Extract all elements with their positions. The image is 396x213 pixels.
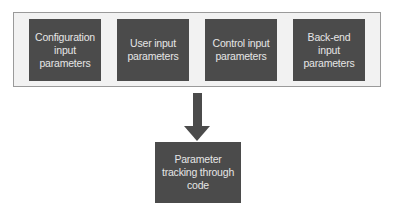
box-label: Parameter tracking through code xyxy=(159,153,237,192)
arrow-head xyxy=(184,126,210,141)
parameter-tracking-box: Parameter tracking through code xyxy=(155,142,241,203)
box-label: Configuration input parameters xyxy=(33,31,97,70)
box-label: Control input parameters xyxy=(209,37,273,63)
back-end-input-parameters-box: Back-end input parameters xyxy=(293,19,365,81)
arrow-shaft xyxy=(193,93,202,127)
user-input-parameters-box: User input parameters xyxy=(117,19,189,81)
box-label: User input parameters xyxy=(121,37,185,63)
configuration-input-parameters-box: Configuration input parameters xyxy=(29,19,101,81)
control-input-parameters-box: Control input parameters xyxy=(205,19,277,81)
box-label: Back-end input parameters xyxy=(297,31,361,70)
